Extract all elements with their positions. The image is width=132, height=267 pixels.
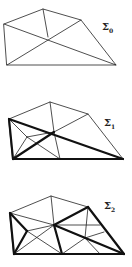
label-sigma-0: Σ0	[102, 21, 113, 34]
triangulation-diagrams	[0, 0, 132, 267]
label-sigma-1: Σ1	[104, 117, 115, 130]
label-sigma-2: Σ2	[104, 200, 115, 213]
figure-sigma-1	[9, 102, 123, 159]
figure-sigma-0	[4, 9, 116, 65]
